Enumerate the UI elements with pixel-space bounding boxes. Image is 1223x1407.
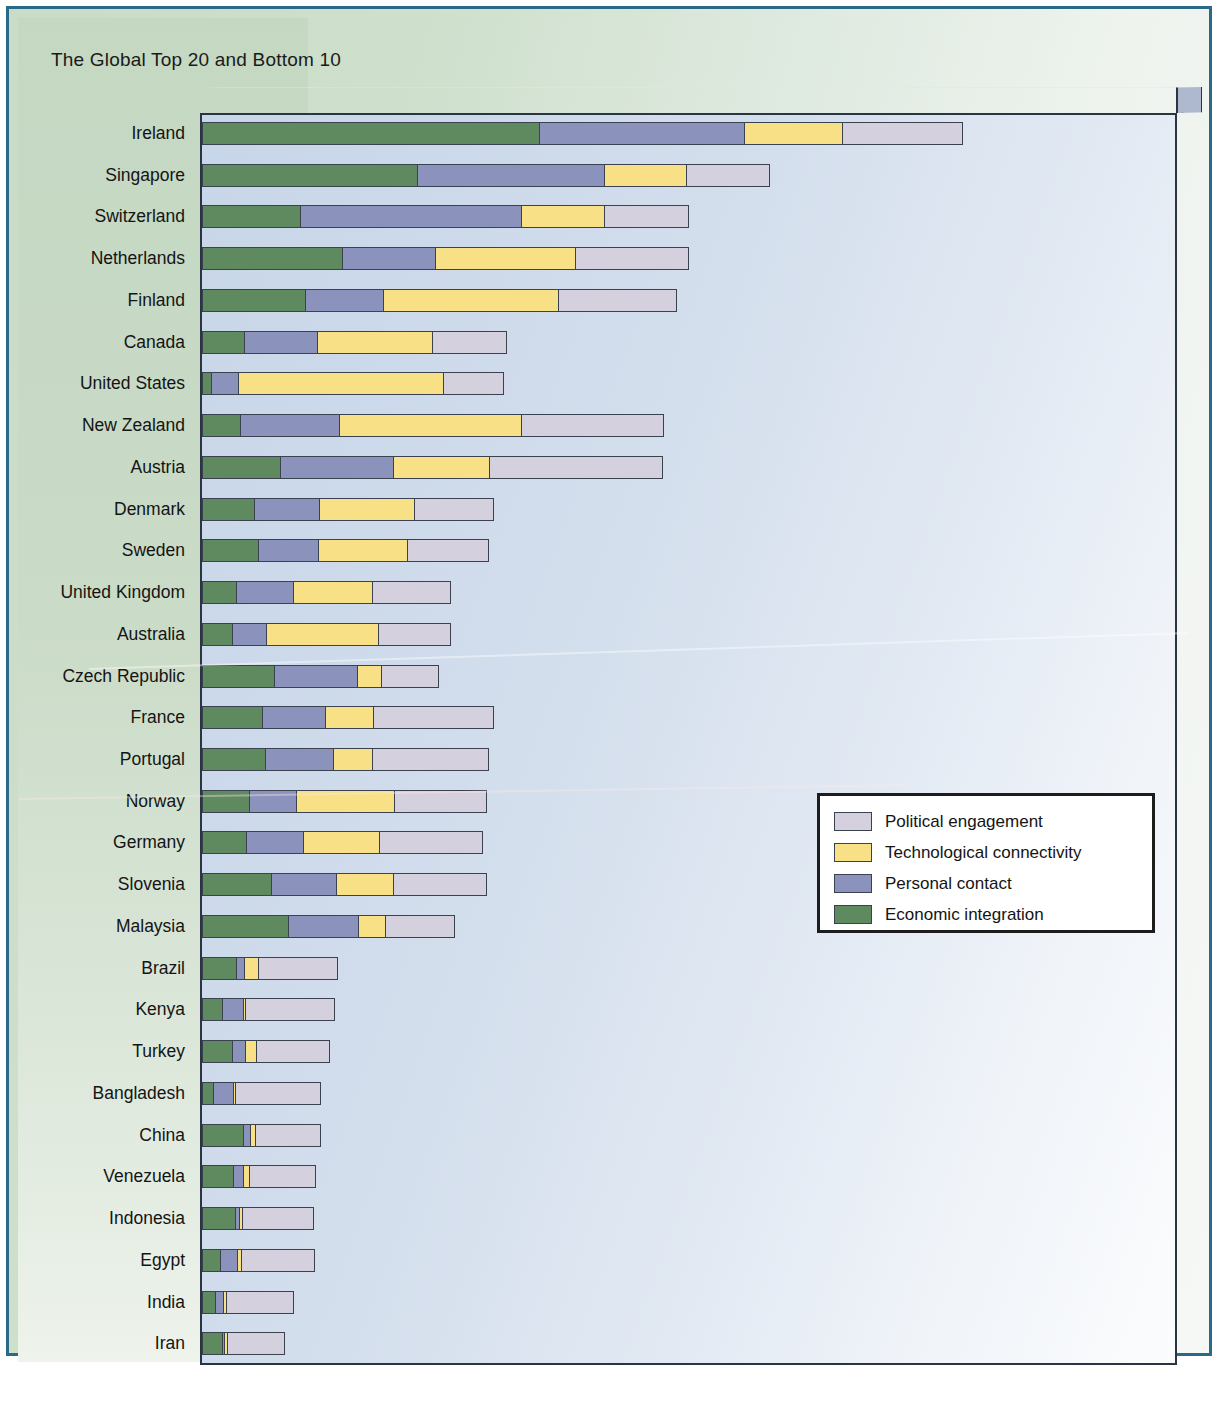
bar-segment — [381, 666, 438, 687]
y-axis-label: Venezuela — [0, 1156, 185, 1198]
bar-segment — [241, 1250, 314, 1271]
bar-segment — [240, 415, 340, 436]
bar-row — [200, 238, 1177, 280]
stacked-bar — [202, 790, 487, 813]
bar-segment — [300, 206, 521, 227]
y-axis-label: Egypt — [0, 1240, 185, 1282]
bar-row — [200, 1198, 1177, 1240]
bar-segment — [203, 332, 244, 353]
bar-segment — [296, 791, 393, 812]
bar-segment — [254, 499, 320, 520]
stacked-bar — [202, 372, 504, 395]
bar-row — [200, 447, 1177, 489]
stacked-bar — [202, 164, 770, 187]
bar-segment — [333, 749, 372, 770]
bar-segment — [293, 582, 371, 603]
stacked-bar — [202, 1291, 294, 1314]
bar-segment — [203, 707, 262, 728]
bar-segment — [319, 499, 413, 520]
legend-swatch — [834, 843, 872, 862]
bar-segment — [407, 540, 488, 561]
stacked-bar — [202, 456, 663, 479]
bar-segment — [604, 206, 688, 227]
bar-segment — [203, 1166, 233, 1187]
bar-segment — [357, 666, 382, 687]
bar-row — [200, 656, 1177, 698]
stacked-bar — [202, 915, 455, 938]
stacked-bar — [202, 748, 489, 771]
bar-segment — [226, 1292, 293, 1313]
y-axis-label: Netherlands — [0, 238, 185, 280]
bar-segment — [203, 499, 254, 520]
bar-segment — [203, 624, 232, 645]
bar-segment — [203, 123, 539, 144]
bar-segment — [203, 1041, 232, 1062]
y-axis-labels: IrelandSingaporeSwitzerlandNetherlandsFi… — [0, 113, 185, 1365]
stacked-bar — [202, 998, 335, 1021]
bar-segment — [435, 248, 575, 269]
bar-segment — [245, 1041, 256, 1062]
bar-segment — [203, 1292, 215, 1313]
y-axis-label: Sweden — [0, 530, 185, 572]
bar-segment — [339, 415, 520, 436]
y-axis-label: Norway — [0, 781, 185, 823]
bar-segment — [249, 1166, 315, 1187]
bar-segment — [379, 832, 482, 853]
stacked-bar — [202, 539, 489, 562]
legend-item: Technological connectivity — [834, 837, 1152, 868]
bar-row — [200, 280, 1177, 322]
y-axis-label: Slovenia — [0, 864, 185, 906]
stacked-bar — [202, 1082, 321, 1105]
bar-segment — [245, 999, 334, 1020]
y-axis-label: Portugal — [0, 739, 185, 781]
bar-segment — [842, 123, 962, 144]
bar-row — [200, 572, 1177, 614]
stacked-bar — [202, 623, 451, 646]
stacked-bar — [202, 205, 689, 228]
bar-segment — [203, 415, 240, 436]
bar-segment — [203, 290, 305, 311]
y-axis-label: Germany — [0, 822, 185, 864]
bar-segment — [203, 1083, 213, 1104]
bar-segment — [744, 123, 843, 144]
legend-item: Personal contact — [834, 868, 1152, 899]
bar-segment — [203, 373, 211, 394]
bar-segment — [303, 832, 378, 853]
y-axis-label: Indonesia — [0, 1198, 185, 1240]
bar-row — [200, 614, 1177, 656]
bar-segment — [266, 624, 378, 645]
bar-segment — [521, 206, 605, 227]
y-axis-label: United States — [0, 363, 185, 405]
bar-segment — [325, 707, 373, 728]
y-axis-label: Austria — [0, 447, 185, 489]
bar-segment — [203, 916, 288, 937]
plot-box-bevels — [197, 87, 1202, 113]
bar-segment — [372, 582, 450, 603]
bar-segment — [243, 1125, 250, 1146]
bar-segment — [604, 165, 687, 186]
bar-row — [200, 1073, 1177, 1115]
bar-segment — [235, 1083, 320, 1104]
bar-segment — [432, 332, 507, 353]
y-axis-label: Australia — [0, 614, 185, 656]
stacked-bar — [202, 1040, 330, 1063]
stacked-bar — [202, 331, 507, 354]
stacked-bar — [202, 957, 338, 980]
bar-segment — [203, 874, 271, 895]
bar-row — [200, 1323, 1177, 1365]
bar-segment — [236, 958, 244, 979]
stacked-bar — [202, 665, 439, 688]
y-axis-label: China — [0, 1115, 185, 1157]
bar-segment — [417, 165, 603, 186]
bar-segment — [233, 1166, 243, 1187]
bar-segment — [255, 1125, 320, 1146]
bar-row — [200, 196, 1177, 238]
bar-row — [200, 155, 1177, 197]
bar-rows — [200, 113, 1177, 1365]
bar-segment — [358, 916, 385, 937]
bar-row — [200, 1156, 1177, 1198]
bar-row — [200, 1282, 1177, 1324]
bar-segment — [256, 1041, 329, 1062]
y-axis-label: Brazil — [0, 948, 185, 990]
bar-segment — [203, 1208, 235, 1229]
